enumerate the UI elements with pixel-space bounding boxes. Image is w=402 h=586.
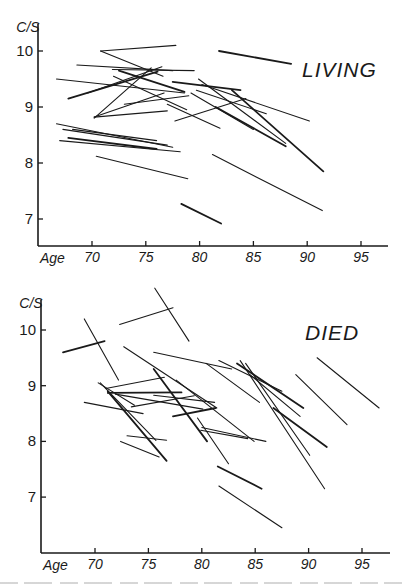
x-axis-title: Age: [42, 557, 68, 573]
subject-segment: [84, 402, 143, 413]
subject-segment: [296, 375, 347, 425]
subject-segment: [68, 138, 156, 149]
y-tick-label: 9: [25, 98, 33, 115]
subject-segment: [246, 363, 310, 455]
x-tick-label: 90: [299, 249, 315, 265]
subject-segment: [108, 392, 182, 393]
chart-title-died: DIED: [305, 321, 359, 345]
chart-living: 78910707580859095AgeC/S LIVING: [0, 0, 402, 290]
chart-living-plot: 78910707580859095AgeC/S: [0, 0, 402, 290]
subject-segment: [219, 486, 282, 528]
subject-segment: [181, 204, 221, 224]
clipped-caption: [0, 578, 402, 586]
subject-segment: [68, 72, 157, 99]
subject-segment: [167, 104, 220, 128]
subject-segment: [219, 51, 291, 64]
subject-segment: [96, 156, 188, 178]
y-tick-label: 8: [28, 432, 36, 449]
subject-segment: [202, 85, 310, 121]
subject-segment: [120, 308, 173, 325]
x-tick-label: 75: [141, 556, 157, 572]
subject-segment: [121, 441, 160, 457]
subject-segment: [101, 45, 176, 51]
y-tick-label: 8: [25, 154, 33, 171]
y-axis-title: C/S: [16, 19, 40, 35]
y-axis-title: C/S: [19, 295, 43, 311]
x-tick-label: 75: [138, 249, 154, 265]
subject-segment: [106, 377, 165, 388]
chart-died: 78910707580859095AgeC/S DIED: [0, 290, 402, 570]
subject-segment: [206, 363, 259, 402]
y-tick-label: 7: [28, 488, 36, 505]
subject-segment: [213, 155, 323, 211]
subject-segment: [94, 93, 164, 117]
x-tick-label: 80: [194, 556, 210, 572]
y-tick-label: 10: [19, 321, 36, 338]
subject-segment: [201, 430, 248, 438]
y-tick-label: 9: [28, 377, 36, 394]
subject-segment: [218, 467, 262, 489]
subject-segment: [63, 341, 105, 352]
y-tick-label: 7: [25, 210, 33, 227]
subject-segment: [198, 418, 229, 464]
x-tick-label: 95: [354, 556, 370, 572]
subject-segment: [131, 396, 194, 407]
x-axis-title: Age: [39, 250, 65, 266]
subject-segment: [94, 68, 151, 118]
x-tick-label: 95: [353, 249, 369, 265]
subject-segment: [73, 129, 157, 140]
subject-segment: [232, 90, 323, 171]
subject-segment: [199, 79, 286, 143]
x-tick-label: 85: [247, 556, 263, 572]
x-tick-label: 70: [87, 556, 103, 572]
subject-segment: [317, 358, 379, 408]
subject-segment: [94, 111, 167, 117]
subject-segment: [84, 319, 118, 380]
subject-segment: [155, 288, 189, 341]
subject-segment: [240, 361, 324, 489]
subject-segment: [216, 107, 286, 146]
x-tick-label: 70: [84, 249, 100, 265]
subject-segment: [124, 96, 189, 104]
y-tick-label: 10: [16, 42, 33, 59]
x-tick-label: 85: [246, 249, 262, 265]
subject-segment: [173, 408, 216, 416]
x-tick-label: 90: [301, 556, 317, 572]
x-tick-label: 80: [192, 249, 208, 265]
chart-title-living: LIVING: [302, 58, 377, 82]
subject-segment: [60, 141, 181, 152]
